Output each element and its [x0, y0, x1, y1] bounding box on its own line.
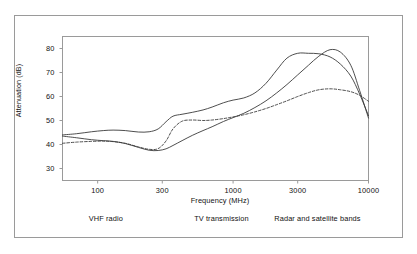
x-tick-label: 1000 [213, 186, 253, 195]
y-tick-label: 30 [39, 164, 55, 173]
y-axis-title: Attenuation (dB) [14, 56, 23, 126]
x-axis-title: Frequency (MHz) [130, 196, 310, 205]
x-tick-label: 100 [78, 186, 118, 195]
y-tick-label: 50 [39, 116, 55, 125]
figure-container: Attenuation (dB) Frequency (MHz) 3040506… [0, 0, 417, 254]
x-tick-label: 10000 [349, 186, 389, 195]
y-tick-label: 70 [39, 68, 55, 77]
band-label: Radar and satellite bands [257, 214, 377, 223]
band-label: VHF radio [46, 214, 166, 223]
plot-frame [63, 37, 369, 181]
x-tick-label: 3000 [278, 186, 318, 195]
y-tick-label: 60 [39, 92, 55, 101]
x-tick-label: 300 [142, 186, 182, 195]
y-tick-label: 80 [39, 44, 55, 53]
y-tick-label: 40 [39, 140, 55, 149]
